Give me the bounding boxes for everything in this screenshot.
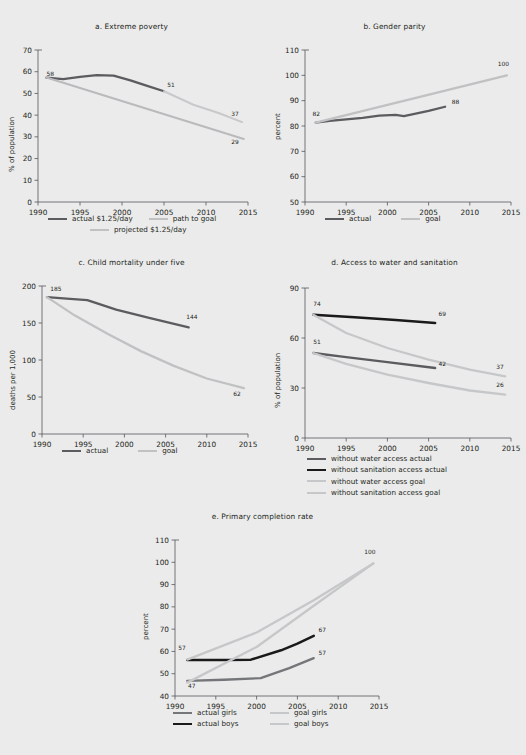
legend-label: without water access goal <box>331 477 425 486</box>
legend-label: actual $1.25/day <box>72 214 133 223</box>
legend-swatch <box>173 723 192 725</box>
plot-area-c: 0501001502001990199520002005201020151851… <box>0 258 263 454</box>
legend-item: goal boys <box>270 719 329 728</box>
svg-text:30: 30 <box>290 384 300 393</box>
svg-text:2005: 2005 <box>419 444 438 453</box>
svg-text:100: 100 <box>285 71 299 80</box>
svg-text:37: 37 <box>496 364 504 370</box>
legend-label: path to goal <box>173 214 217 223</box>
svg-text:58: 58 <box>46 71 54 77</box>
svg-text:82: 82 <box>312 111 320 117</box>
legend-item: without water access actual <box>307 454 526 463</box>
svg-text:70: 70 <box>160 625 170 634</box>
legend-d: without water access actual without sani… <box>307 454 526 500</box>
svg-text:20: 20 <box>23 154 33 163</box>
svg-text:50: 50 <box>290 198 300 207</box>
svg-text:144: 144 <box>186 314 197 320</box>
svg-text:90: 90 <box>160 580 170 589</box>
svg-text:200: 200 <box>22 282 36 291</box>
svg-text:10: 10 <box>23 176 33 185</box>
legend-item: goal <box>138 446 177 455</box>
legend-label: goal <box>425 214 440 223</box>
panel-extreme-poverty: a. Extreme poverty % of population 01020… <box>0 22 263 252</box>
legend-item: without sanitation access goal <box>307 488 526 497</box>
legend-item: actual girls <box>173 708 245 717</box>
svg-text:100: 100 <box>364 549 375 555</box>
legend-swatch <box>270 723 289 725</box>
svg-text:90: 90 <box>290 96 300 105</box>
legend-c: actual goal <box>62 446 262 457</box>
svg-text:70: 70 <box>23 46 33 55</box>
svg-text:30: 30 <box>23 132 33 141</box>
legend-label: goal boys <box>294 719 329 728</box>
svg-text:0: 0 <box>27 198 32 207</box>
svg-text:51: 51 <box>313 339 321 345</box>
svg-text:67: 67 <box>319 627 327 633</box>
legend-swatch <box>270 712 289 714</box>
legend-label: without sanitation access actual <box>331 465 447 474</box>
legend-item: actual <box>325 214 371 223</box>
legend-swatch <box>62 450 81 452</box>
svg-text:1990: 1990 <box>29 208 48 217</box>
legend-swatch <box>307 492 326 494</box>
legend-swatch <box>401 218 420 220</box>
legend-item: path to goal <box>149 214 217 223</box>
svg-text:60: 60 <box>160 647 170 656</box>
legend-e: actual girls goal girls actual boys goal… <box>173 708 394 731</box>
svg-text:26: 26 <box>496 382 504 388</box>
svg-text:69: 69 <box>438 311 446 317</box>
legend-item: actual boys <box>173 719 245 728</box>
legend-a: actual $1.25/day path to goal projected … <box>48 214 263 237</box>
legend-swatch <box>138 450 157 452</box>
svg-text:29: 29 <box>231 139 239 145</box>
legend-label: without sanitation access goal <box>331 488 440 497</box>
svg-text:2010: 2010 <box>461 444 480 453</box>
plot-area-d: 0306090199019952000200520102015746951423… <box>263 258 526 458</box>
legend-item: goal girls <box>270 708 327 717</box>
legend-swatch <box>173 712 192 714</box>
legend-label: actual <box>86 446 108 455</box>
svg-text:100: 100 <box>22 356 36 365</box>
legend-swatch <box>325 218 344 220</box>
svg-text:0: 0 <box>294 434 299 443</box>
panel-gender-parity: b. Gender parity percent 506070809010011… <box>263 22 526 252</box>
svg-text:60: 60 <box>290 172 300 181</box>
svg-text:2000: 2000 <box>378 444 397 453</box>
svg-text:74: 74 <box>313 301 321 307</box>
svg-text:110: 110 <box>285 46 299 55</box>
svg-text:1995: 1995 <box>337 444 356 453</box>
legend-item: actual <box>62 446 108 455</box>
svg-text:1990: 1990 <box>296 444 315 453</box>
legend-label: without water access actual <box>331 454 432 463</box>
svg-text:37: 37 <box>231 111 239 117</box>
plot-area-a: 0102030405060701990199520002005201020155… <box>0 22 263 222</box>
svg-text:1990: 1990 <box>296 208 315 217</box>
svg-text:185: 185 <box>50 286 61 292</box>
legend-item: projected $1.25/day <box>90 225 186 234</box>
legend-swatch <box>307 458 326 460</box>
svg-text:57: 57 <box>319 650 327 656</box>
svg-text:40: 40 <box>23 111 33 120</box>
svg-text:51: 51 <box>167 82 175 88</box>
legend-swatch <box>307 480 326 482</box>
plot-area-e: 4050607080901001101990199520002005201020… <box>131 512 394 716</box>
svg-text:0: 0 <box>31 430 36 439</box>
legend-item: goal <box>401 214 440 223</box>
legend-label: actual <box>349 214 371 223</box>
legend-swatch <box>307 469 326 471</box>
legend-b: actual goal <box>325 214 525 225</box>
svg-text:80: 80 <box>160 602 170 611</box>
svg-text:150: 150 <box>22 319 36 328</box>
svg-text:40: 40 <box>160 692 170 701</box>
svg-text:57: 57 <box>178 645 186 651</box>
legend-label: goal <box>162 446 177 455</box>
svg-text:110: 110 <box>155 536 169 545</box>
panel-water-sanitation: d. Access to water and sanitation % of p… <box>263 258 526 508</box>
legend-swatch <box>90 229 109 231</box>
legend-label: actual girls <box>197 708 237 717</box>
legend-swatch <box>149 218 168 220</box>
svg-text:50: 50 <box>160 669 170 678</box>
legend-swatch <box>48 218 67 220</box>
svg-text:62: 62 <box>233 391 241 397</box>
legend-label: projected $1.25/day <box>114 225 186 234</box>
